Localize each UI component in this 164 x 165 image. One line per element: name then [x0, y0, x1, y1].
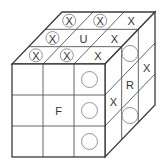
- top-cell: X: [94, 50, 102, 62]
- x-mark: X: [96, 15, 104, 27]
- right-cell: X: [110, 96, 118, 108]
- right-cell: X: [143, 62, 151, 74]
- x-mark: X: [65, 15, 73, 27]
- x-mark: X: [110, 96, 118, 108]
- x-mark: X: [111, 33, 119, 45]
- front-cell: F: [55, 105, 62, 117]
- top-cell: X: [111, 33, 119, 45]
- top-cell: X: [127, 15, 135, 27]
- x-mark: X: [32, 50, 40, 62]
- x-mark: X: [63, 50, 71, 62]
- top-cell: U: [80, 33, 88, 45]
- x-mark: X: [94, 50, 102, 62]
- cube-diagram: XXXXUXXXX XRX F: [0, 0, 164, 165]
- x-mark: X: [143, 62, 151, 74]
- face-label: R: [126, 79, 134, 91]
- x-mark: X: [49, 33, 57, 45]
- face-label: F: [55, 105, 62, 117]
- right-cell: R: [126, 79, 134, 91]
- front-face: F: [12, 64, 105, 157]
- x-mark: X: [127, 15, 135, 27]
- face-label: U: [80, 33, 88, 45]
